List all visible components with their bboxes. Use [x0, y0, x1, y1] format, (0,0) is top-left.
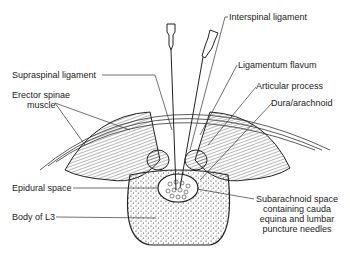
- label-epidural-space: Epidural space: [12, 183, 72, 193]
- articular-processes: [147, 150, 207, 170]
- label-ligamentum-flavum: Ligamentum flavum: [238, 60, 317, 70]
- label-erector-spinae-line1: Erector spinae: [12, 90, 70, 100]
- label-subarachnoid-line2: containing cauda: [256, 204, 338, 214]
- label-subarachnoid-line3: equina and lumbar: [256, 214, 338, 224]
- label-erector-spinae-line2: muscle: [27, 100, 56, 110]
- label-subarachnoid-space: Subarachnoid space containing cauda equi…: [256, 194, 338, 234]
- label-supraspinal-ligament: Supraspinal ligament: [12, 70, 96, 80]
- label-articular-process: Articular process: [256, 81, 323, 91]
- label-subarachnoid-line1: Subarachnoid space: [256, 194, 338, 204]
- label-subarachnoid-line4: puncture needles: [256, 224, 338, 234]
- label-interspinal-ligament: Interspinal ligament: [229, 12, 307, 22]
- label-dura-arachnoid: Dura/arachnoid: [271, 98, 333, 108]
- dural-sac: [158, 174, 198, 202]
- label-body-of-l3: Body of L3: [12, 212, 55, 222]
